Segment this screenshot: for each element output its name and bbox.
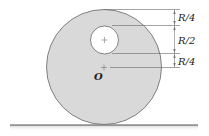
dim-label-middle: R/2	[177, 35, 195, 46]
center-label: O	[94, 71, 103, 82]
dim-label-top: R/4	[177, 12, 195, 23]
dim-label-bottom: R/4	[177, 56, 195, 67]
diagram-canvas: R/4 R/2 R/4 O	[0, 0, 209, 136]
ground-shadow	[10, 125, 198, 131]
